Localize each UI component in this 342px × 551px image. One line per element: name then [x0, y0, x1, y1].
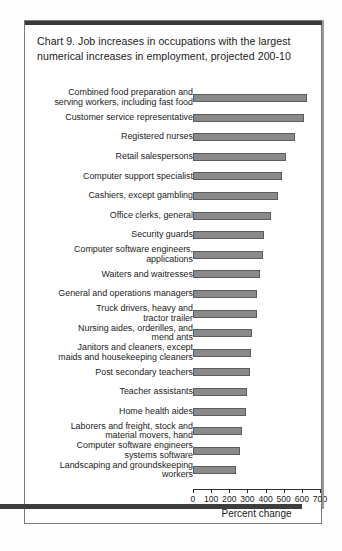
- bar: [193, 408, 246, 416]
- card-bottom-edge: [0, 504, 302, 509]
- bar: [193, 114, 304, 122]
- bar-category-label: Post secondary teachers: [29, 368, 193, 378]
- bar-category-label: Security guards: [29, 230, 193, 240]
- x-axis-tick: [211, 489, 212, 493]
- x-axis-tick: [193, 489, 194, 493]
- bar-category-label: Landscaping and groundskeeping workers: [29, 461, 193, 480]
- bar-category-label: Waiters and waitresses: [29, 270, 193, 280]
- bar: [193, 153, 286, 161]
- bar-category-label: Office clerks, general: [29, 211, 193, 221]
- x-axis-title: Percent change: [193, 508, 320, 519]
- bar: [193, 290, 257, 298]
- x-axis-tick: [284, 489, 285, 493]
- bar: [193, 192, 278, 200]
- bar-category-label: Computer support specialist: [29, 172, 193, 182]
- x-axis-tick: [320, 489, 321, 493]
- chart-page: Chart 9. Job increases in occupations wi…: [0, 0, 342, 551]
- bar: [193, 133, 295, 141]
- x-axis-tick: [247, 489, 248, 493]
- x-axis-tick: [302, 489, 303, 493]
- bar-category-label: Cashiers, except gambling: [29, 191, 193, 201]
- bar: [193, 388, 247, 396]
- chart-card: Chart 9. Job increases in occupations wi…: [24, 20, 322, 524]
- x-axis-tick: [266, 489, 267, 493]
- bar-category-label: Janitors and cleaners, except maids and …: [29, 343, 193, 362]
- x-axis-tick-label: 200: [222, 494, 236, 504]
- bar: [193, 270, 260, 278]
- bar-category-label: Computer software engineers systems soft…: [29, 441, 193, 460]
- bar: [193, 466, 236, 474]
- bar: [193, 447, 240, 455]
- x-axis-tick-label: 400: [258, 494, 272, 504]
- bar: [193, 172, 282, 180]
- chart-title: Chart 9. Job increases in occupations wi…: [37, 34, 305, 64]
- bar: [193, 427, 242, 435]
- bar: [193, 349, 251, 357]
- bar-category-label: Home health aides: [29, 407, 193, 417]
- bar-category-label: Laborers and freight, stock and material…: [29, 422, 193, 441]
- bar: [193, 368, 250, 376]
- bar-category-label: Teacher assistants: [29, 387, 193, 397]
- x-axis-tick: [229, 489, 230, 493]
- bar: [193, 94, 307, 102]
- bar: [193, 251, 263, 259]
- x-axis-tick-label: 600: [295, 494, 309, 504]
- bar-category-label: Combined food preparation and serving wo…: [29, 88, 193, 107]
- x-axis-tick-label: 500: [277, 494, 291, 504]
- x-axis-tick-label: 700: [313, 494, 327, 504]
- card-right-edge: [322, 20, 324, 509]
- card-top-edge: [25, 21, 323, 25]
- x-axis-tick-label: 0: [191, 494, 196, 504]
- bar-category-label: Computer software engineers, application…: [29, 245, 193, 264]
- x-axis-tick-label: 100: [204, 494, 218, 504]
- bar-category-label: Retail salespersons: [29, 152, 193, 162]
- bar-category-label: General and operations managers: [29, 289, 193, 299]
- bar-category-label: Truck drivers, heavy and tractor trailer: [29, 304, 193, 323]
- bar-category-label: Registered nurses: [29, 132, 193, 142]
- bar: [193, 231, 264, 239]
- bar: [193, 310, 257, 318]
- bar-category-label: Customer service representative: [29, 113, 193, 123]
- bar: [193, 212, 271, 220]
- x-axis-tick-label: 300: [240, 494, 254, 504]
- bar-category-label: Nursing aides, orderilles, and mend ants: [29, 324, 193, 343]
- plot-area: Combined food preparation and serving wo…: [25, 87, 321, 507]
- bar: [193, 329, 252, 337]
